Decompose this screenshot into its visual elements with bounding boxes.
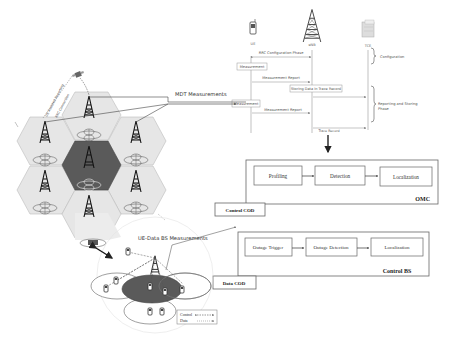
configuration-brace (371, 48, 376, 64)
reporting-brace (371, 86, 376, 122)
ue-phone-icon (104, 285, 108, 292)
configuration-phase-label: Configuration (380, 55, 404, 59)
ue-phone-icon (148, 283, 152, 290)
legend: Control Data (177, 310, 217, 324)
ue-phone-icon (160, 308, 164, 315)
omc-title: OMC (415, 196, 430, 202)
ue-data-bs-arrow (166, 227, 236, 270)
ue-phone-icon (163, 288, 167, 295)
ue-cluster-bottom-icon (80, 239, 106, 247)
measurement-report-1: Measurement Report (262, 76, 300, 80)
ue-phone-icon (148, 308, 152, 315)
mdt-measurements-label: MDT Measurements (175, 91, 227, 97)
control-bs-panel: Outage Trigger Outage Detection Localiza… (213, 232, 429, 289)
satellite-icon (72, 70, 85, 79)
detection-label: Detection (330, 173, 351, 179)
legend-data-label: Data (180, 318, 188, 323)
outage-trigger-label: Outage Trigger (253, 245, 284, 250)
bs-localization-label: Localization (385, 245, 410, 250)
measurement-label-2: Measurement (234, 102, 259, 106)
cellular-network: MDT Measurements UE Assisted Reporting R… (15, 70, 246, 247)
legend-control-label: Control (180, 312, 193, 317)
control-bs-title: Control BS (383, 268, 412, 274)
tce-server-icon (362, 20, 374, 37)
localization-label: Localization (393, 174, 419, 180)
cell-edge-marker (15, 122, 18, 127)
control-cod-label: Control COD (226, 208, 255, 213)
rrc-config-message: RRC Configuration Phase (259, 51, 305, 55)
ue-phone-icon (126, 248, 130, 255)
measurement-report-2: Measurement Report (264, 108, 302, 112)
storing-label: Storing Data in Trace Record (291, 87, 341, 91)
tce-label: TCE (364, 44, 372, 48)
ue-label: UE (251, 42, 256, 46)
ue-phone-icon (114, 277, 118, 284)
ue-phone-icon (250, 19, 256, 34)
ue-phone-icon (180, 286, 184, 293)
data-cod-label: Data COD (223, 281, 246, 286)
enb-label: eNB (308, 43, 316, 47)
reporting-phase-label-line1: Reporting and Storing (378, 102, 417, 106)
outage-detection-label: Outage Detection (313, 245, 349, 250)
trace-record-label: Trace Record (317, 129, 339, 133)
omc-panel: Profiling Detection Localization OMC Con… (215, 160, 438, 216)
sequence-diagram: UE eNB TCE RRC Configuration Phase Measu… (232, 10, 417, 134)
measurement-label-1: Measurement (240, 65, 265, 69)
diagram-canvas: UE eNB TCE RRC Configuration Phase Measu… (0, 0, 450, 339)
reporting-phase-label-line2: Phase (378, 107, 390, 111)
control-link-arrow (96, 248, 112, 258)
enb-tower-icon (303, 10, 321, 43)
profiling-label: Profiling (269, 173, 288, 179)
